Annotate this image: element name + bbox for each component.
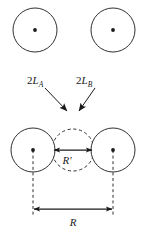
right-body-label-subscript: B xyxy=(88,80,93,89)
left-body-label: 2LA xyxy=(27,74,44,89)
top-right-center-dot xyxy=(111,28,115,32)
bottom-right-center-dot xyxy=(111,148,115,152)
inner-dimension-label: R′ xyxy=(61,154,72,166)
outer-dimension-label: R xyxy=(69,216,77,228)
right-pointer-arrow xyxy=(79,88,95,111)
inner-dimension: R′ xyxy=(54,150,92,166)
inner-dimension-label-prime: ′ xyxy=(69,154,72,166)
right-body-label-prefix-L: L xyxy=(81,74,88,86)
bottom-left-center-dot xyxy=(31,148,35,152)
outer-dimension: R xyxy=(34,209,112,228)
left-pointer-arrow xyxy=(45,88,67,111)
pointer-arrows xyxy=(45,88,95,111)
body-size-labels: 2LA 2LB xyxy=(27,74,93,89)
top-left-center-dot xyxy=(33,28,37,32)
diagram-canvas: 2LA 2LB R′ xyxy=(0,0,148,235)
left-body-label-prefix-L: L xyxy=(32,74,39,86)
left-body-label-subscript: A xyxy=(38,80,44,89)
right-body-label: 2LB xyxy=(76,74,93,89)
top-row-bodies xyxy=(13,8,135,52)
physics-diagram-figure: 2LA 2LB R′ xyxy=(0,0,148,235)
